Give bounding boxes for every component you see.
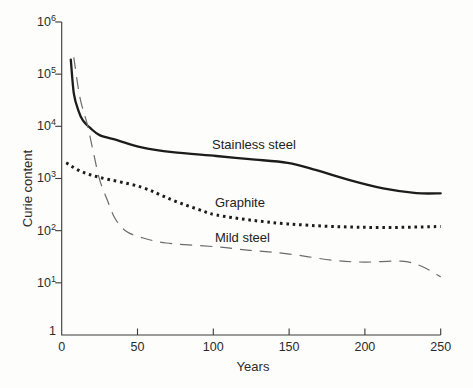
y-tick-label: 1 <box>22 323 56 339</box>
y-tick-label: 104 <box>22 118 56 134</box>
series-label-graphite: Graphite <box>215 193 265 212</box>
series-label-stainless-steel: Stainless steel <box>212 135 296 154</box>
x-tick-label: 150 <box>279 339 300 355</box>
y-tick-label: 101 <box>22 275 56 291</box>
y-tick-label: 103 <box>22 170 56 186</box>
x-axis-title: Years <box>213 359 293 374</box>
y-tick-label: 102 <box>22 223 56 239</box>
y-tick-label: 105 <box>22 66 56 82</box>
axes-lines <box>62 22 441 335</box>
x-tick-label: 50 <box>131 339 145 355</box>
stainless-steel-curve <box>71 60 441 194</box>
x-tick-label: 250 <box>430 339 451 355</box>
series-label-mild-steel: Mild steel <box>215 228 270 247</box>
x-tick-label: 0 <box>58 339 65 355</box>
x-tick-label: 200 <box>354 339 375 355</box>
y-tick-label: 106 <box>22 14 56 30</box>
figure: Curie content Years Stainless steel Grap… <box>0 0 473 388</box>
x-tick-label: 100 <box>203 339 224 355</box>
